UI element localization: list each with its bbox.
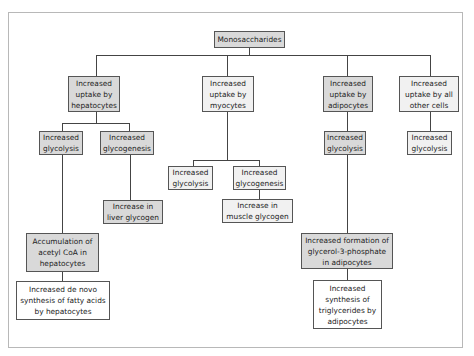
connector [347,155,348,233]
node-triglycerides: Increased synthesis of triglycerides by … [313,280,382,329]
connector [227,55,228,76]
connector [96,55,431,56]
node-adipocyte-glycolysis: Increased glycolysis [324,131,366,155]
node-liver-glycogen: Increase in liver glycogen [103,200,163,224]
connector [62,123,63,131]
connector [62,155,63,233]
connector [96,55,97,76]
node-hepatocyte-glycogenesis: Increased glycogenesis [100,131,154,155]
node-acetyl-coa: Accumulation of acetyl CoA in hepatocyte… [26,233,99,272]
connector [249,47,250,55]
node-other-glycolysis: Increased glycolysis [407,131,452,155]
node-myocyte-glycolysis: Increased glycolysis [168,166,213,190]
connector [96,112,97,123]
connector [347,268,348,280]
node-muscle-glycogen: Increase in muscle glycogen [222,199,293,223]
connector [347,112,348,131]
connector [347,55,348,76]
node-uptake-adipocytes: Increased uptake by adipocytes [323,76,373,112]
node-uptake-other-cells: Increased uptake by all other cells [399,76,459,112]
connector [430,112,431,131]
connector [227,112,228,160]
node-myocyte-glycogenesis: Increased glycogenesis [233,166,286,190]
connector [430,55,431,76]
node-de-novo-fatty-acids: Increased de novo synthesis of fatty aci… [16,281,110,320]
connector [193,160,260,161]
connector [62,123,130,124]
node-uptake-hepatocytes: Increased uptake by hepatocytes [68,76,120,112]
connector [129,123,130,131]
node-uptake-myocytes: Increased uptake by myocytes [202,76,254,112]
connector [259,190,260,199]
node-monosaccharides: Monosaccharides [214,31,285,48]
node-glycerol-3-phosphate: Increased formation of glycerol-3-phosph… [301,233,393,269]
connector [130,155,131,200]
connector [62,272,63,281]
node-hepatocyte-glycolysis: Increased glycolysis [39,131,83,155]
